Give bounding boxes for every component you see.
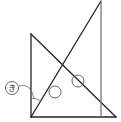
triangle-tall xyxy=(31,1,101,117)
label-text: き xyxy=(8,84,16,93)
label-leader-line xyxy=(19,85,34,98)
angle-marker-circle-1 xyxy=(49,86,61,98)
geometry-diagram: き xyxy=(0,0,121,122)
angle-marker-circle-2 xyxy=(72,75,84,87)
angle-arc xyxy=(31,98,41,101)
angle-label: き xyxy=(6,82,19,95)
triangle-tall-hypotenuse xyxy=(31,1,101,117)
